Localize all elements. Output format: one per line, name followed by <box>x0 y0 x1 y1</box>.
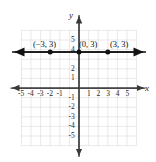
data-point <box>48 50 53 55</box>
y-tick-2: 2 <box>71 65 75 73</box>
coordinate-plane-graphic <box>0 0 156 162</box>
x-tick-2: 2 <box>97 90 101 98</box>
y-axis-label: y <box>69 11 73 20</box>
y-tick-1: 1 <box>71 74 75 82</box>
x-tick-minus-4: -4 <box>28 90 34 98</box>
data-point <box>77 50 82 55</box>
y-tick-minus-4: -4 <box>69 122 75 130</box>
point-label-3-3: (3, 3) <box>110 40 128 49</box>
y-tick-minus-3: -3 <box>69 113 75 121</box>
point-label-minus3-3: (−3, 3) <box>33 40 56 49</box>
x-tick-minus-1: -1 <box>56 90 62 98</box>
x-axis-label: x <box>145 84 149 93</box>
data-point <box>105 50 110 55</box>
x-tick-minus-2: -2 <box>47 90 53 98</box>
x-tick-minus-3: -3 <box>37 90 43 98</box>
y-tick-minus-5: -5 <box>69 132 75 140</box>
y-tick-5: 5 <box>71 36 75 44</box>
x-tick-5: 5 <box>125 90 129 98</box>
x-tick-minus-5: -5 <box>18 90 24 98</box>
x-tick-3: 3 <box>106 90 110 98</box>
x-tick-1: 1 <box>87 90 91 98</box>
coordinate-plane-figure: y x -5 -4 -3 -2 -1 1 2 3 4 5 5 4 2 1 -1 … <box>0 0 156 162</box>
x-tick-4: 4 <box>116 90 120 98</box>
y-tick-minus-1: -1 <box>69 94 75 102</box>
point-label-0-3: (0, 3) <box>79 40 97 49</box>
y-tick-minus-2: -2 <box>69 103 75 111</box>
y-tick-4: 4 <box>71 46 75 54</box>
